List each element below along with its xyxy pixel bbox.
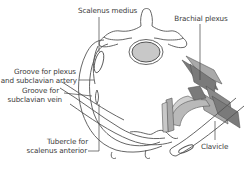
label-tubercle-line2: scalenus anterior bbox=[0, 146, 87, 155]
label-clavicle: Clavicle bbox=[201, 142, 228, 151]
anatomy-diagram: Scalenus medius Brachial plexus Groove f… bbox=[0, 0, 250, 171]
label-groove-vein-line1: Groove for bbox=[0, 86, 59, 95]
label-scalenus-medius: Scalenus medius bbox=[78, 6, 122, 15]
label-brachial-plexus: Brachial plexus bbox=[170, 14, 232, 23]
label-groove-plexus-line1: Groove for plexus bbox=[0, 67, 76, 76]
label-tubercle-line1: Tubercle for bbox=[0, 137, 88, 146]
brachial-plexus-illustration bbox=[162, 56, 240, 132]
leader-lines bbox=[64, 17, 215, 151]
label-groove-vein-line2: subclavian vein bbox=[0, 95, 62, 104]
label-groove-plexus-line2: and subclavian artery bbox=[0, 76, 77, 85]
